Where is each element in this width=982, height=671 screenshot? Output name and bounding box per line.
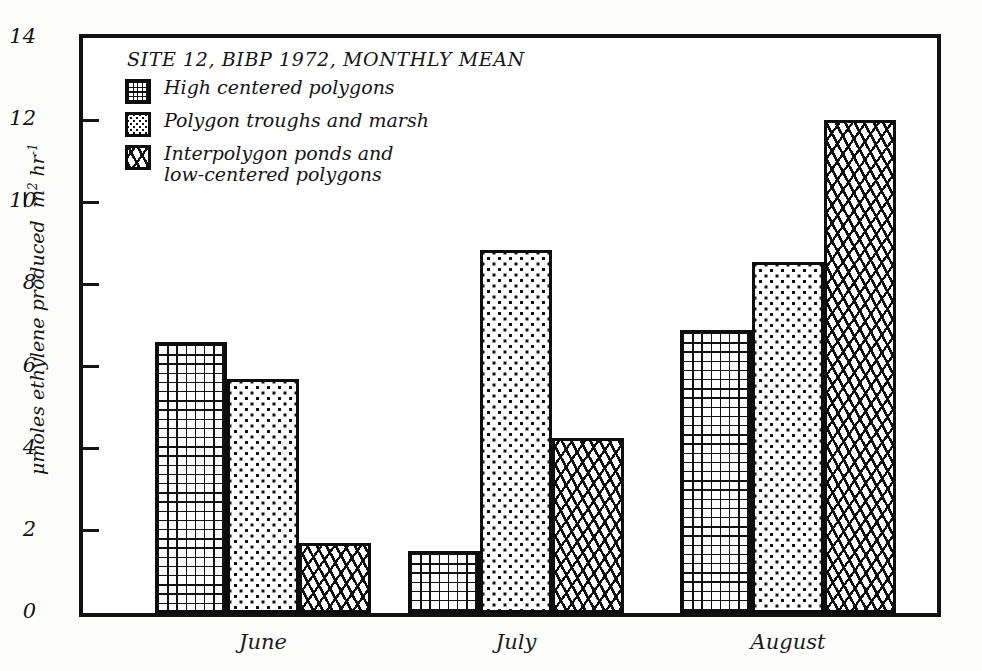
legend-entries: High centered polygonsPolygon troughs an… [125,77,525,186]
chart-figure: μmoles ethylene produced m2 hr-1 0246810… [0,0,982,671]
bar [824,120,896,613]
legend-entry: Interpolygon ponds and low-centered poly… [125,143,525,186]
y-tick-mark [83,283,99,286]
bar [299,543,371,613]
x-tick-label: July [496,630,537,654]
y-tick-label: 0 [23,599,36,623]
x-tick-label: June [239,630,287,654]
bar [552,438,624,613]
y-tick-label: 12 [9,106,36,130]
legend-swatch-dots [125,112,151,137]
y-axis-unit-hr-exp: -1 [26,143,40,155]
y-tick-label: 6 [23,353,36,377]
bar [227,379,299,613]
y-tick-label: 14 [9,24,36,48]
legend-swatch-grid [125,79,151,104]
legend-entry: Polygon troughs and marsh [125,110,525,137]
legend-swatch-speckle [125,145,151,170]
y-tick-label: 8 [23,270,36,294]
y-axis-title: μmoles ethylene produced m2 hr-1 [26,59,48,559]
bar [155,342,227,613]
bar [408,551,480,613]
chart-legend: SITE 12, BIBP 1972, MONTHLY MEAN High ce… [125,48,525,192]
y-tick-mark [83,447,99,450]
y-tick-mark [83,119,99,122]
y-tick-label: 2 [23,517,36,541]
x-tick-label: August [751,630,826,654]
bar [752,262,824,613]
y-tick-mark [83,529,99,532]
y-axis-unit-hr: hr [26,155,48,176]
legend-label: Polygon troughs and marsh [164,110,429,131]
y-tick-mark [83,365,99,368]
y-tick-mark [83,201,99,204]
legend-entry: High centered polygons [125,77,525,104]
plot-area: SITE 12, BIBP 1972, MONTHLY MEAN High ce… [79,34,941,617]
bar [680,330,752,613]
y-tick-label: 4 [23,435,36,459]
bar [480,250,552,613]
legend-label: High centered polygons [164,77,395,98]
legend-title: SITE 12, BIBP 1972, MONTHLY MEAN [127,48,525,70]
legend-label: Interpolygon ponds and low-centered poly… [164,143,394,186]
y-tick-label: 10 [9,188,36,212]
